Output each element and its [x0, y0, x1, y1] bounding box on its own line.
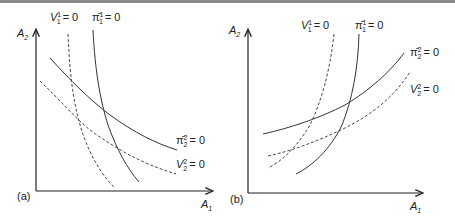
y-axis-label-b: A2	[228, 24, 240, 38]
curve-v11-b	[268, 34, 334, 168]
label-v11-a: V11= 0	[50, 11, 78, 25]
x-axis-label-a: A1	[200, 198, 212, 212]
panel-a: A2 A1 (a) V11= 0 π̄11= 0 π̄22= 0 V22= 0	[16, 11, 212, 212]
label-pi22-a: π̄22= 0	[176, 134, 205, 148]
curve-pi11-b	[296, 34, 359, 174]
x-axis-label-b: A1	[409, 200, 421, 214]
label-v22-a: V22= 0	[176, 158, 205, 172]
y-axis-label-a: A2	[16, 27, 28, 41]
panel-tag-a: (a)	[17, 190, 30, 202]
curve-pi22-b	[263, 53, 404, 134]
curve-v11-a	[68, 34, 114, 187]
label-pi11-b: π̄11= 0	[355, 19, 383, 33]
curve-v22-a	[40, 81, 176, 174]
label-v11-b: V11= 0	[301, 19, 329, 33]
panel-b: A2 A1 (b) V11= 0 π̄11= 0 π̄22= 0 V22= 0	[228, 19, 439, 214]
curve-v22-b	[268, 72, 410, 156]
curve-pi11-a	[93, 30, 139, 182]
label-pi22-b: π̄22= 0	[410, 46, 439, 60]
label-v22-b: V22= 0	[410, 83, 439, 97]
panel-tag-b: (b)	[230, 193, 243, 205]
diagram-canvas: A2 A1 (a) V11= 0 π̄11= 0 π̄22= 0 V22= 0 …	[0, 0, 455, 218]
label-pi11-a: π̄11= 0	[92, 11, 120, 25]
curve-pi22-a	[50, 58, 177, 150]
